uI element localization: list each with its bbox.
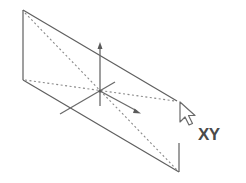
- y-axis: [100, 91, 137, 111]
- plane-label: XY: [198, 126, 220, 143]
- pointer-cursor-icon: [180, 102, 195, 125]
- xy-plane-diagram: [0, 0, 246, 183]
- origin-point: [98, 89, 101, 92]
- z-axis-arrow-icon: [98, 42, 103, 49]
- plane-bottom-edge: [23, 80, 179, 172]
- coordinate-axes: [60, 42, 141, 114]
